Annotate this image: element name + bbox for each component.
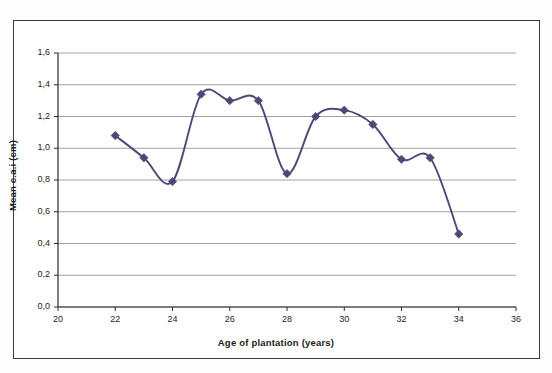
x-tick-label: 20 <box>43 314 73 324</box>
x-tick-label: 24 <box>158 314 188 324</box>
y-tick-label: 1,2 <box>24 111 50 121</box>
y-tick-label: 1,0 <box>24 142 50 152</box>
chart-figure: 0,00,20,40,60,81,01,21,41,6 202224262830… <box>0 0 552 373</box>
x-tick-label: 32 <box>387 314 417 324</box>
y-tick-label: 0,6 <box>24 206 50 216</box>
y-tick-label: 0,4 <box>24 238 50 248</box>
y-tick-label: 1,6 <box>24 47 50 57</box>
y-tick-label: 0,0 <box>24 301 50 311</box>
x-tick-label: 30 <box>329 314 359 324</box>
y-tick-label: 1,4 <box>24 79 50 89</box>
x-tick-label: 28 <box>272 314 302 324</box>
x-tick-label: 36 <box>501 314 531 324</box>
y-tick-label: 0,8 <box>24 174 50 184</box>
series-markers-mean-cai <box>111 90 463 238</box>
x-axis-title: Age of plantation (years) <box>0 337 552 348</box>
x-tick-label: 26 <box>215 314 245 324</box>
x-tick-label: 34 <box>444 314 474 324</box>
y-axis-title: Mean c.a.i (cm) <box>7 101 18 251</box>
y-tick-label: 0,2 <box>24 269 50 279</box>
series-line-mean-cai <box>115 89 459 234</box>
x-tick-label: 22 <box>100 314 130 324</box>
tick-marks <box>54 53 516 311</box>
gridline-group <box>58 53 516 307</box>
